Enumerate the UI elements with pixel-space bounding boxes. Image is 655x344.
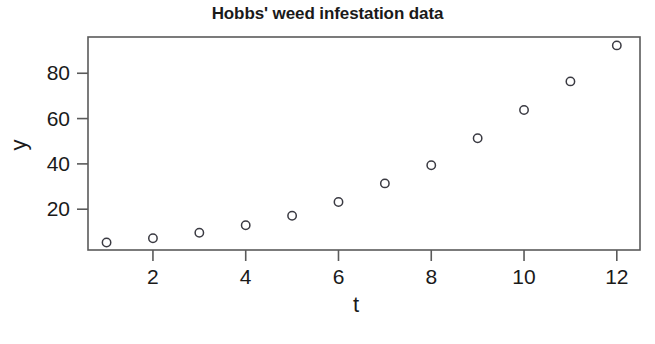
y-tick-label: 60 bbox=[47, 107, 70, 130]
y-tick-label: 80 bbox=[47, 61, 70, 84]
x-tick-label: 6 bbox=[333, 265, 345, 288]
x-tick-label: 10 bbox=[512, 265, 535, 288]
data-point bbox=[242, 221, 250, 229]
y-tick-label: 40 bbox=[47, 152, 70, 175]
chart-container: Hobbs' weed infestation data 20406080 24… bbox=[0, 0, 655, 344]
data-point bbox=[102, 238, 110, 246]
x-axis-ticks bbox=[153, 250, 617, 261]
scatter-plot-svg: 20406080 24681012 y t bbox=[0, 0, 655, 344]
y-tick-label: 20 bbox=[47, 197, 70, 220]
x-tick-label: 12 bbox=[605, 265, 628, 288]
y-axis-title: y bbox=[6, 140, 31, 151]
x-axis-title: t bbox=[353, 292, 359, 317]
data-point bbox=[334, 198, 342, 206]
data-point bbox=[473, 134, 481, 142]
x-tick-label: 2 bbox=[147, 265, 159, 288]
x-tick-label: 8 bbox=[425, 265, 437, 288]
data-point bbox=[566, 77, 574, 85]
data-point bbox=[195, 229, 203, 237]
data-point bbox=[427, 161, 435, 169]
y-axis-ticks bbox=[77, 73, 88, 209]
data-point bbox=[520, 106, 528, 114]
x-axis-tick-labels: 24681012 bbox=[147, 265, 628, 288]
data-point bbox=[288, 212, 296, 220]
plot-frame bbox=[88, 37, 640, 250]
x-tick-label: 4 bbox=[240, 265, 252, 288]
data-point bbox=[613, 41, 621, 49]
data-point bbox=[149, 234, 157, 242]
data-point bbox=[381, 179, 389, 187]
y-axis-tick-labels: 20406080 bbox=[47, 61, 70, 220]
data-points-layer bbox=[102, 41, 621, 247]
